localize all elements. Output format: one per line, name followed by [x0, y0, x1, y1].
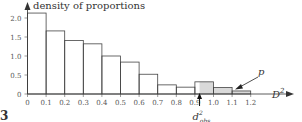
histogram-bar: [46, 31, 65, 94]
histogram-chart: 00.51.01.52.000.10.20.30.40.50.60.70.80.…: [0, 0, 302, 122]
x-tick-label: 1.0: [208, 99, 219, 107]
histogram-bar: [121, 62, 140, 94]
y-tick-label: 2.0: [10, 15, 21, 23]
x-tick-label: 0.6: [134, 99, 146, 107]
x-tick-label: 0: [25, 99, 29, 107]
x-tick-label: 0.7: [152, 99, 163, 107]
x-axis-arrow-icon: [286, 91, 294, 97]
y-axis-label: density of proportions: [33, 0, 145, 11]
histogram-bars: [28, 13, 251, 94]
histogram-bar: [176, 87, 195, 94]
x-tick-label: 1.1: [227, 99, 238, 107]
x-axis-label: D2: [271, 87, 285, 100]
y-tick-label: 0.5: [10, 72, 21, 80]
y-tick-label: 1.0: [10, 53, 21, 61]
p-pointer-arrow-icon: [235, 84, 243, 90]
histogram-bar: [65, 40, 84, 94]
x-tick-label: 1.2: [245, 99, 256, 107]
x-tick-label: 0.2: [59, 99, 70, 107]
histogram-bar: [83, 44, 102, 94]
x-tick-label: 0.9: [189, 99, 200, 107]
x-tick-label: 0.8: [171, 99, 182, 107]
dobs-label: d2obs: [193, 109, 211, 122]
x-tick-label: 0.5: [115, 99, 126, 107]
x-tick-label: 0.3: [78, 99, 89, 107]
x-tick-label: 0.4: [96, 99, 108, 107]
histogram-bar: [139, 74, 158, 94]
y-axis-arrow-icon: [25, 2, 31, 10]
histogram-bar: [158, 85, 177, 94]
y-tick-label: 0: [17, 91, 21, 99]
histogram-bar: [28, 13, 47, 94]
y-tick-label: 1.5: [10, 34, 21, 42]
histogram-bar: [102, 56, 121, 94]
x-tick-label: 0.1: [41, 99, 52, 107]
p-label: p: [258, 66, 265, 77]
caption-fragment: 3: [0, 110, 8, 122]
